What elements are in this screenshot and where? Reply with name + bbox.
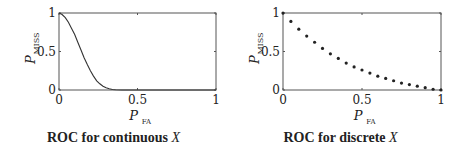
roc-point xyxy=(424,86,427,89)
roc-point xyxy=(289,20,292,23)
roc-point xyxy=(321,47,324,50)
roc-point xyxy=(305,35,308,38)
x-axis-label-subscript: FA xyxy=(142,118,152,126)
roc-point xyxy=(384,77,387,80)
axes-box xyxy=(283,13,441,90)
x-axis-label-subscript: FA xyxy=(366,118,376,126)
roc-point xyxy=(432,88,435,91)
roc-point xyxy=(400,81,403,84)
x-axis-label: P xyxy=(128,108,138,123)
chart-discrete: 00.5100.51PFAPMISS ROC for discrete X xyxy=(227,0,454,158)
caption-variable: X xyxy=(389,130,398,145)
caption-text: ROC for continuous xyxy=(47,130,168,145)
caption-continuous: ROC for continuous X xyxy=(0,130,227,146)
roc-point xyxy=(376,75,379,78)
x-tick-label: 1 xyxy=(212,93,220,107)
roc-point xyxy=(392,79,395,82)
roc-point xyxy=(297,28,300,31)
y-tick-label: 0 xyxy=(48,83,56,97)
roc-point xyxy=(408,83,411,86)
chart-continuous: 00.5100.51PFAPMISS ROC for continuous X xyxy=(0,0,227,158)
roc-point xyxy=(337,57,340,60)
y-axis-label-subscript: MISS xyxy=(32,32,41,54)
axes-box xyxy=(59,13,216,90)
roc-point xyxy=(416,85,419,88)
x-tick-label: 0.5 xyxy=(352,93,371,107)
roc-point xyxy=(360,68,363,71)
x-tick-label: 0.5 xyxy=(128,93,147,107)
y-axis-label-main: P xyxy=(23,55,38,65)
roc-curve xyxy=(59,13,216,90)
y-axis-label-main: P xyxy=(247,55,262,65)
y-axis-label-subscript: MISS xyxy=(256,32,265,54)
x-tick-label: 0 xyxy=(55,93,63,107)
x-tick-label: 0 xyxy=(279,93,287,107)
y-tick-label: 1 xyxy=(48,6,56,20)
caption-text: ROC for discrete xyxy=(283,130,385,145)
roc-point xyxy=(439,88,442,91)
roc-point xyxy=(281,11,284,14)
caption-variable: X xyxy=(172,130,181,145)
y-axis-label: PMISS xyxy=(247,32,265,64)
y-axis-label: PMISS xyxy=(23,32,41,64)
roc-point xyxy=(313,41,316,44)
roc-point xyxy=(345,61,348,64)
roc-point xyxy=(353,65,356,68)
y-tick-label: 0 xyxy=(272,83,280,97)
y-tick-label: 1 xyxy=(272,6,280,20)
caption-discrete: ROC for discrete X xyxy=(227,130,454,146)
x-axis-label: P xyxy=(353,108,363,123)
x-tick-label: 1 xyxy=(437,93,445,107)
roc-point xyxy=(368,71,371,74)
roc-point xyxy=(329,52,332,55)
